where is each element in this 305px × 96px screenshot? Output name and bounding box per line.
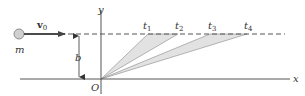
- time-label-t3: t3: [208, 20, 217, 33]
- distance-label: b: [75, 52, 81, 63]
- time-label-t4: t4: [244, 20, 253, 33]
- y-axis-label: y: [97, 4, 104, 15]
- equal-areas-diagram: m v0 b y x O t1 t2 t3 t4: [0, 0, 305, 96]
- t2-sub: 2: [179, 25, 183, 33]
- origin-label: O: [91, 82, 99, 93]
- swept-area-t3-t4: [101, 34, 247, 79]
- t3-sub: 3: [212, 25, 216, 33]
- particle-m: [14, 29, 24, 39]
- t4-sub: 4: [248, 25, 253, 33]
- time-label-t2: t2: [175, 20, 184, 33]
- time-label-t1: t1: [143, 20, 152, 33]
- x-axis-label: x: [293, 73, 299, 84]
- velocity-label: v0: [36, 19, 47, 32]
- t1-sub: 1: [147, 25, 151, 33]
- particle-label: m: [15, 44, 24, 55]
- velocity-label-sub: 0: [43, 24, 47, 32]
